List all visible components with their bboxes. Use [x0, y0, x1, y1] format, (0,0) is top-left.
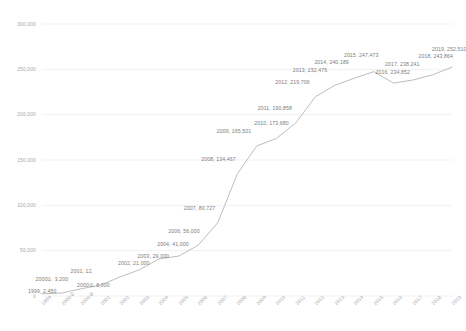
line-chart: 050,000100,000150,000200,000250,000300,0…: [0, 0, 466, 331]
data-point-label: 2014, 240,189: [314, 59, 348, 65]
data-point-label: 2019, 252,510: [432, 46, 466, 52]
y-axis-tick-label: 150,000: [0, 157, 36, 163]
plot-area: [0, 0, 466, 331]
data-series-line: [42, 67, 452, 294]
data-point-label: 2010, 173,680: [254, 120, 288, 126]
data-point-label: 2001, 12,: [71, 268, 94, 274]
data-point-label: 2008, 134,467: [201, 156, 235, 162]
data-point-label: 2007, 80,727: [184, 205, 216, 211]
data-point-label: 2012, 219,706: [275, 79, 309, 85]
data-point-label: 2000②, 8,000: [77, 282, 110, 288]
data-point-label: 2009, 165,501: [217, 128, 251, 134]
data-point-label: 2011, 190,858: [258, 105, 292, 111]
y-axis-tick-label: 250,000: [0, 66, 36, 72]
data-point-label: 1999, 2,450: [28, 288, 57, 294]
data-point-label: 2003, 29,000: [138, 253, 170, 259]
data-point-label: 2018, 243,864: [418, 53, 452, 59]
data-point-label: 2004, 41,000: [157, 241, 189, 247]
data-point-label: 2016, 234,852: [375, 69, 409, 75]
data-point-label: 2013, 232,476: [293, 67, 327, 73]
chart-svg: [0, 0, 466, 331]
data-point-label: 2000①, 3,200: [36, 276, 69, 282]
data-point-label: 2015, 247,473: [344, 52, 378, 58]
y-axis-tick-label: 200,000: [0, 111, 36, 117]
data-point-label: 2002, 21,000: [118, 260, 150, 266]
y-axis-tick-label: 300,000: [0, 21, 36, 27]
data-point-label: 2006, 56,000: [168, 228, 200, 234]
data-point-label: 2017, 238,241: [385, 61, 419, 67]
y-axis-tick-label: 100,000: [0, 202, 36, 208]
y-axis-tick-label: 50,000: [0, 247, 36, 253]
